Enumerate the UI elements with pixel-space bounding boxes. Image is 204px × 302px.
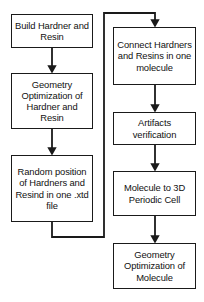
node-connect-hardners-and-resins: Connect Hardners and Resins in one molec… bbox=[113, 27, 196, 85]
node-connect-hardners-and-resins-label: Connect Hardners and Resins in one molec… bbox=[116, 39, 193, 73]
node-build-hardner-and-resin: Build Hardner and Resin bbox=[11, 14, 93, 48]
node-build-hardner-and-resin-label: Build Hardner and Resin bbox=[14, 20, 90, 42]
node-random-position-of-hardners-and-resind: Random position of Hardners and Resind i… bbox=[11, 155, 93, 222]
node-geometry-optimization-of-molecule: Geometry Optimization of Molecule bbox=[113, 243, 196, 289]
node-geometry-optimization-of-hardner-and-resin-label: Geometry Optimization of Hardner and Res… bbox=[14, 79, 90, 124]
flowchart-diagram: Build Hardner and Resin Geometry Optimiz… bbox=[0, 0, 204, 302]
node-molecule-to-3d-periodic-cell-label: Molecule to 3D Periodic Cell bbox=[116, 182, 193, 204]
node-artifacts-verification-label: Artifacts verification bbox=[116, 117, 193, 139]
node-random-position-of-hardners-and-resind-label: Random position of Hardners and Resind i… bbox=[14, 166, 90, 211]
node-geometry-optimization-of-hardner-and-resin: Geometry Optimization of Hardner and Res… bbox=[11, 73, 93, 129]
node-geometry-optimization-of-molecule-label: Geometry Optimization of Molecule bbox=[116, 249, 193, 283]
node-artifacts-verification: Artifacts verification bbox=[113, 112, 196, 145]
node-molecule-to-3d-periodic-cell: Molecule to 3D Periodic Cell bbox=[113, 171, 196, 216]
